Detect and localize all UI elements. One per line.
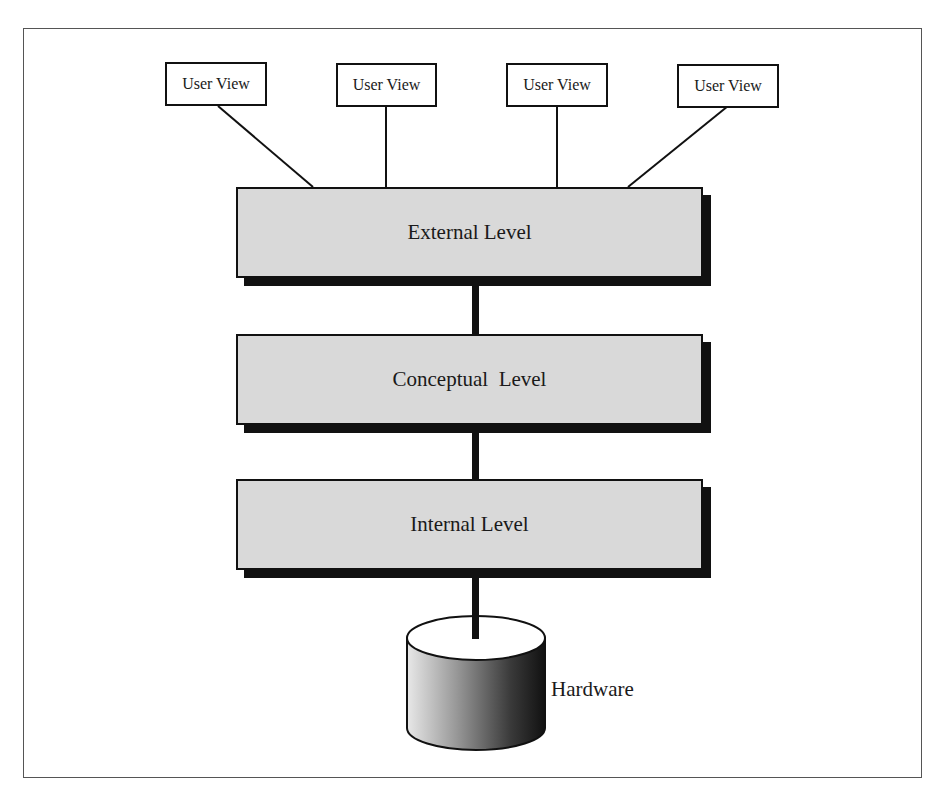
connector-conceptual-internal xyxy=(472,432,479,479)
connector-user-view-1 xyxy=(218,106,313,187)
user-view-box-2: User View xyxy=(336,63,437,107)
user-view-box-4: User View xyxy=(677,64,779,108)
user-view-box-3: User View xyxy=(506,63,608,107)
user-view-box-1: User View xyxy=(165,62,267,106)
internal-level-box: Internal Level xyxy=(236,479,703,570)
conceptual-level-box: Conceptual Level xyxy=(236,334,703,425)
hardware-label: Hardware xyxy=(551,677,634,702)
connector-user-view-4 xyxy=(628,106,728,187)
database-cylinder-icon xyxy=(407,616,545,750)
external-level-box: External Level xyxy=(236,187,703,278)
connector-external-conceptual xyxy=(472,286,479,334)
